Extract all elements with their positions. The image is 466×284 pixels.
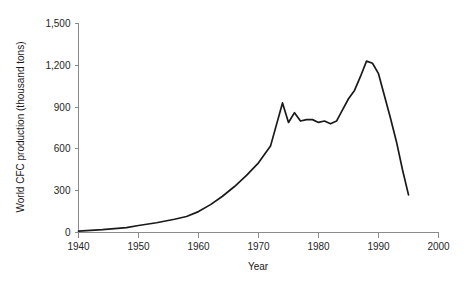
y-tick-label: 900 [54,102,71,113]
y-tick-label: 0 [65,227,71,238]
y-tick-label: 1,200 [45,60,70,71]
x-axis: 1940195019601970198019902000 [67,233,450,252]
x-tick-label: 2000 [427,241,450,252]
x-tick-label: 1960 [187,241,210,252]
x-tick-label: 1990 [367,241,390,252]
y-tick-label: 300 [54,185,71,196]
y-tick-label: 1,500 [45,18,70,29]
x-tick-label: 1980 [307,241,330,252]
data-line-world-cfc-production [79,61,409,231]
chart-container: 03006009001,2001,500 1940195019601970198… [0,0,466,284]
y-axis: 03006009001,2001,500 [45,18,78,238]
cfc-production-line-chart: 03006009001,2001,500 1940195019601970198… [0,0,466,284]
x-tick-label: 1950 [127,241,150,252]
x-tick-label: 1970 [247,241,270,252]
y-tick-label: 600 [54,143,71,154]
x-axis-title: Year [248,261,269,272]
y-axis-title: World CFC production (thousand tons) [15,41,26,212]
data-series-group [79,61,409,231]
x-tick-label: 1940 [67,241,90,252]
